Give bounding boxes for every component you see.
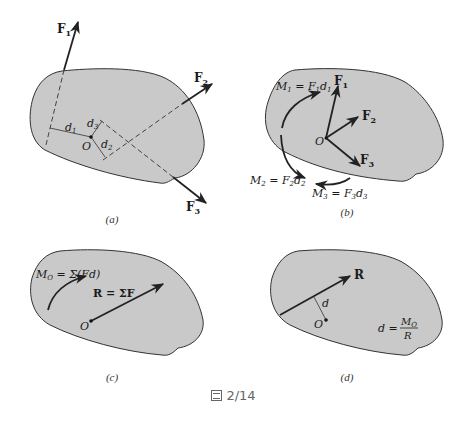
- force-F2-arrow: [182, 84, 212, 104]
- svg-text:R = ΣF: R = ΣF: [93, 287, 135, 300]
- svg-text:M3 = F3d3: M3 = F3d3: [311, 187, 368, 201]
- svg-text:F3: F3: [186, 200, 201, 216]
- svg-text:M1 = F1d1: M1 = F1d1: [275, 80, 332, 94]
- svg-text:MO = Σ(Fd): MO = Σ(Fd): [35, 268, 100, 282]
- svg-text:R: R: [403, 330, 412, 341]
- figure-icon: [211, 390, 222, 401]
- svg-text:R: R: [354, 268, 365, 282]
- figure-label: 2/14: [0, 388, 467, 403]
- svg-text:O: O: [315, 135, 324, 148]
- svg-text:d: d: [322, 297, 329, 310]
- caption-c: (c): [106, 371, 119, 384]
- svg-text:F1: F1: [57, 22, 71, 38]
- panel-d: R d O d = MO R (d): [271, 250, 443, 384]
- svg-text:O: O: [82, 140, 91, 153]
- panel-a: F1 F2 F3 d1 d3 d2 O (a): [30, 22, 212, 226]
- rigid-body-d: [271, 250, 443, 355]
- panel-c: MO = Σ(Fd) R = ΣF O (c): [31, 250, 204, 384]
- figure-number: 2/14: [226, 388, 255, 403]
- caption-b: (b): [341, 206, 354, 219]
- point-O-a: [89, 135, 93, 139]
- moment-M3-arc: [316, 178, 350, 185]
- svg-text:d =: d =: [378, 322, 398, 335]
- rigid-body-c: [31, 250, 204, 355]
- point-O-c: [89, 319, 93, 323]
- panel-b: M1 = F1d1 F1 F2 F3 O M2 = F2d2 M3 = F3d3…: [249, 69, 443, 219]
- svg-text:M2 = F2d2: M2 = F2d2: [249, 174, 306, 188]
- svg-text:O: O: [314, 318, 323, 331]
- rigid-body-a: [30, 69, 204, 184]
- caption-d: (d): [341, 371, 354, 384]
- statics-figure: F1 F2 F3 d1 d3 d2 O (a) M1 = F1d1 F1 F2 …: [0, 0, 467, 423]
- point-O-d: [324, 318, 328, 322]
- svg-text:O: O: [80, 320, 89, 333]
- svg-text:F2: F2: [194, 71, 208, 87]
- caption-a: (a): [106, 213, 119, 226]
